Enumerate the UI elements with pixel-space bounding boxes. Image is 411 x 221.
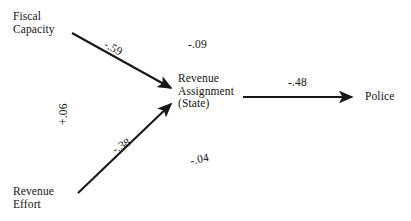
coefficient-correlation-exogenous: +.06	[57, 103, 69, 125]
path-diagram: Fiscal Capacity Revenue Effort Revenue A…	[0, 0, 411, 221]
node-fiscal-capacity: Fiscal Capacity	[13, 10, 55, 35]
node-revenue-effort: Revenue Effort	[13, 185, 54, 210]
node-revenue-assignment: Revenue Assignment (State)	[178, 72, 234, 110]
arrow-fiscal-to-assignment	[72, 33, 171, 88]
coefficient-disturbance-assignment: -.09	[188, 38, 207, 50]
coefficient-assignment-to-police: -.48	[288, 76, 307, 88]
node-police: Police	[365, 90, 394, 103]
